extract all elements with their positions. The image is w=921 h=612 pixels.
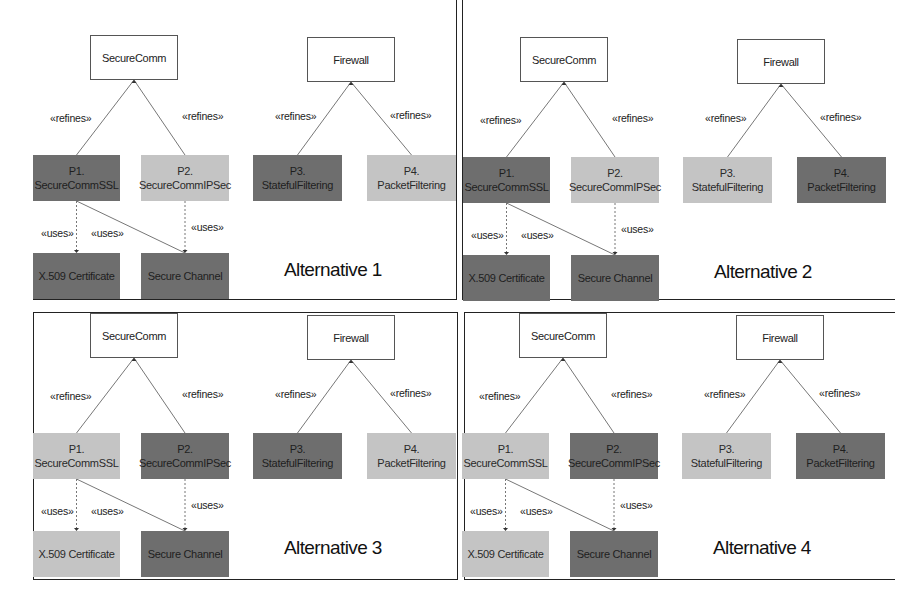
policy-name: StatefulFiltering [691, 456, 762, 470]
policy-id: P1. [498, 442, 514, 456]
policy-id: P2. [606, 442, 622, 456]
policy-p1: P1.SecureCommSSL [462, 433, 549, 479]
refines-edge-p2 [563, 358, 614, 433]
policy-id: P3. [719, 442, 735, 456]
policy-name: PacketFiltering [806, 456, 874, 470]
feature-name: Firewall [762, 331, 798, 345]
uses-label: «uses» [520, 505, 553, 517]
connector-lines [0, 0, 921, 612]
refines-label: «refines» [704, 388, 745, 400]
refines-label: «refines» [819, 387, 860, 399]
policy-p4: P4.PacketFiltering [796, 433, 885, 479]
component-name: X.509 Certificate [467, 547, 543, 561]
feature-securecomm: SecureComm [519, 313, 607, 358]
policy-p3: P3.StatefulFiltering [682, 433, 771, 479]
refines-label: «refines» [479, 390, 520, 402]
policy-name: SecureCommIPSec [568, 456, 660, 470]
feature-firewall: Firewall [736, 315, 824, 360]
component-secure-channel: Secure Channel [570, 531, 658, 577]
policy-p2: P2.SecureCommIPSec [570, 433, 658, 479]
uses-label: «uses» [620, 499, 653, 511]
feature-name: SecureComm [531, 329, 595, 343]
alternative-title: Alternative 4 [713, 537, 811, 559]
policy-id: P4. [833, 442, 849, 456]
refines-label: «refines» [611, 388, 652, 400]
component-x509-certificate: X.509 Certificate [462, 531, 549, 577]
component-name: Secure Channel [577, 547, 652, 561]
policy-name: SecureCommSSL [463, 456, 547, 470]
uses-label: «uses» [470, 505, 503, 517]
